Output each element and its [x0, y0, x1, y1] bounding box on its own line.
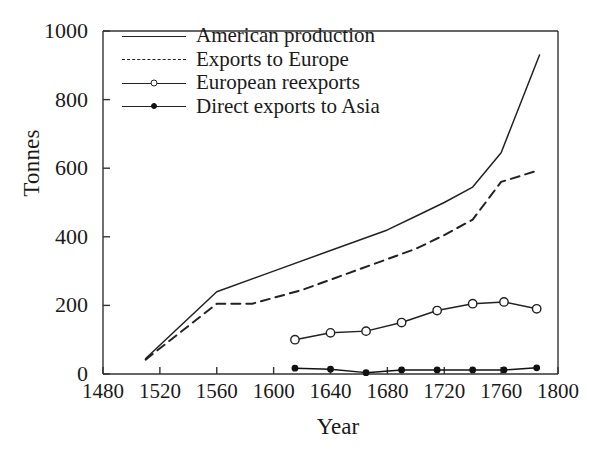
chart-figure: 02004006008001000 1480152015601600164016… [0, 0, 598, 457]
y-tick-label: 1000 [0, 20, 88, 42]
legend-swatch-open-circle-line [122, 76, 186, 90]
y-tick-label: 0 [0, 363, 88, 385]
x-tick-label: 1720 [423, 381, 465, 402]
data-point [291, 336, 299, 344]
x-tick-label: 1680 [366, 381, 408, 402]
data-point [362, 327, 370, 335]
data-point [470, 367, 475, 372]
legend-item-american-production: American production [122, 24, 380, 48]
chart-legend: American production Exports to Europe Eu… [122, 24, 380, 118]
data-point [534, 365, 539, 370]
data-point [433, 306, 441, 314]
x-tick-label: 1800 [537, 381, 579, 402]
x-tick-label: 1600 [253, 381, 295, 402]
legend-item-exports-to-europe: Exports to Europe [122, 48, 380, 72]
data-point [328, 366, 333, 371]
legend-swatch-solid-line [122, 29, 186, 43]
x-tick-label: 1480 [82, 381, 124, 402]
series-line [146, 170, 540, 360]
legend-label: Exports to Europe [196, 48, 349, 72]
data-point [397, 318, 405, 326]
legend-label: American production [196, 24, 375, 48]
series-european-reexports [291, 298, 541, 344]
legend-label: Direct exports to Asia [196, 95, 380, 119]
data-point [363, 370, 368, 375]
x-axis-title: Year [0, 414, 598, 440]
data-point [532, 305, 540, 313]
x-tick-label: 1640 [310, 381, 352, 402]
legend-swatch-filled-circle-line [122, 99, 186, 113]
x-tick-label: 1560 [196, 381, 238, 402]
legend-label: European reexports [196, 71, 360, 95]
data-point [399, 367, 404, 372]
x-tick-label: 1520 [139, 381, 181, 402]
legend-item-direct-exports-to-asia: Direct exports to Asia [122, 95, 380, 119]
series-exports-to-europe [146, 170, 540, 360]
data-point [500, 298, 508, 306]
data-point [468, 299, 476, 307]
x-tick-label: 1760 [480, 381, 522, 402]
data-point [326, 329, 334, 337]
y-tick-label: 200 [0, 294, 88, 316]
y-axis-title: Tonnes [19, 93, 45, 233]
legend-item-european-reexports: European reexports [122, 71, 380, 95]
data-point [292, 365, 297, 370]
data-point [434, 367, 439, 372]
data-point [501, 367, 506, 372]
legend-swatch-dashed-line [122, 52, 186, 66]
